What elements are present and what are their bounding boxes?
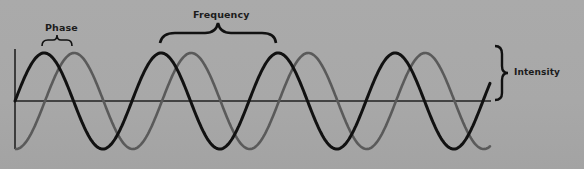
phase-brace: [42, 35, 72, 46]
phase-label: Phase: [45, 22, 78, 33]
frequency-brace: [160, 23, 276, 43]
wave-plot: [0, 0, 584, 169]
intensity-brace: [495, 46, 508, 100]
wave-diagram: Phase Frequency Intensity: [0, 0, 584, 169]
intensity-label: Intensity: [514, 67, 560, 77]
frequency-label: Frequency: [193, 9, 250, 20]
